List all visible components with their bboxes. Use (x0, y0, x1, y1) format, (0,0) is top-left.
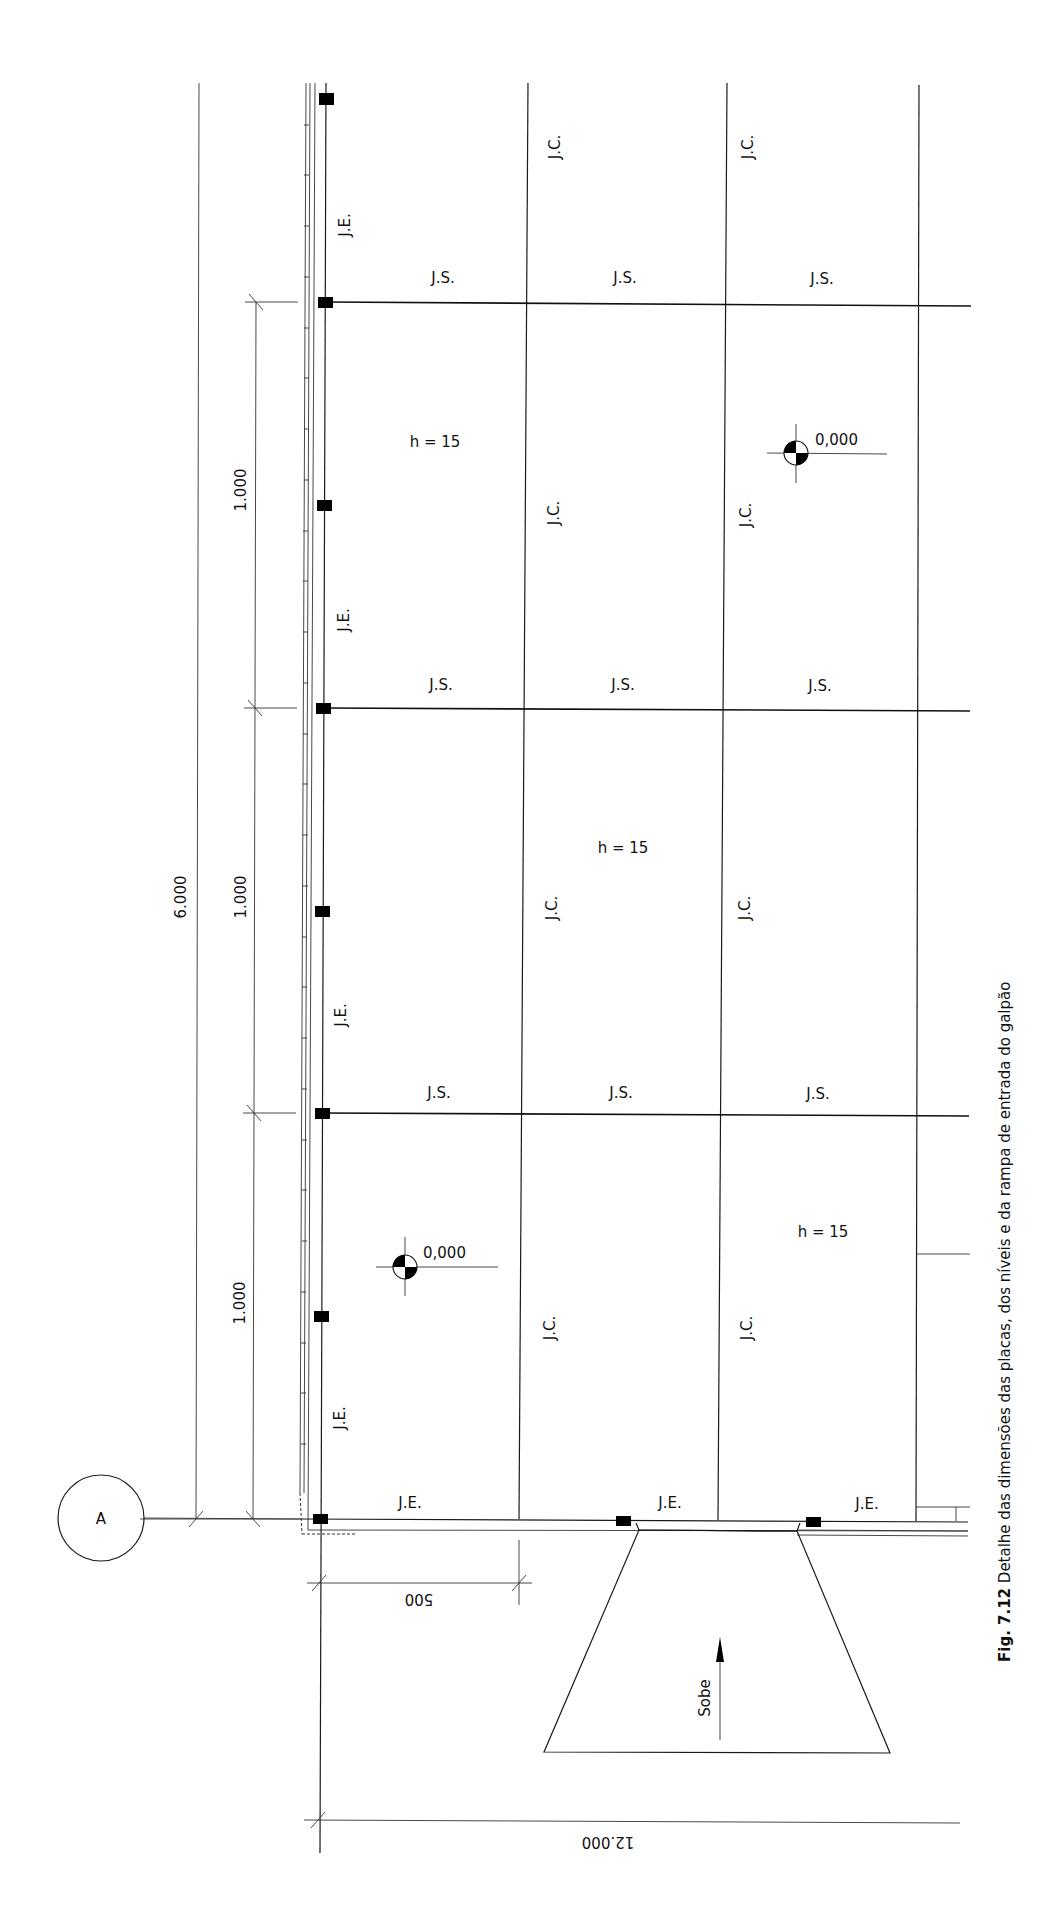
dowel-square-icon (806, 1517, 821, 1527)
dowel-square-icon (315, 906, 330, 917)
label-construction-joint: J.C. (545, 501, 563, 526)
label-sawn-joint: J.S. (807, 677, 831, 695)
dimension-500-label: 500 (405, 1590, 434, 1608)
dowel-squares (313, 93, 821, 1527)
label-sawn-joint: J.S. (610, 676, 634, 694)
grid-bubble-a: A (58, 1475, 300, 1561)
label-sawn-joint: J.S. (608, 1084, 632, 1102)
label-sawn-joint: J.S. (805, 1085, 829, 1103)
slab-thickness-label: h = 15 (410, 433, 461, 451)
label-sawn-joint: J.S. (809, 270, 833, 288)
grid-bubble-label: A (96, 1510, 107, 1528)
floor-slab-plan-drawing: 6.000 1.000 1.000 1.000 A (0, 0, 1047, 1928)
level-value: 0,000 (423, 1244, 466, 1262)
arrow-up-icon (716, 1637, 724, 1740)
label-construction-joint: J.C. (738, 1316, 756, 1341)
dimension-1000-label-middle: 1.000 (232, 876, 250, 919)
dimension-1000-label-bottom: 1.000 (231, 1282, 249, 1325)
dimension-1000-label-top: 1.000 (232, 469, 250, 512)
sawn-joint-1 (326, 302, 971, 306)
label-sawn-joint: J.S. (426, 1084, 450, 1102)
caption-text: Detalhe das dimensões das placas, dos ní… (996, 982, 1014, 1584)
label-expansion-joint: J.E. (331, 1406, 349, 1430)
label-expansion-joint: J.E. (336, 213, 354, 237)
label-construction-joint: J.C. (736, 896, 754, 921)
dowel-square-icon (616, 1516, 631, 1526)
label-construction-joint: J.C. (543, 896, 561, 921)
label-sawn-joint: J.S. (430, 269, 454, 287)
dimension-12000: 12.000 (304, 1812, 960, 1851)
dowel-square-icon (318, 297, 333, 308)
label-construction-joint: J.C. (737, 503, 755, 528)
expansion-joint-left (320, 83, 326, 1853)
dowel-square-icon (316, 703, 331, 714)
slab-thickness-label: h = 15 (798, 1223, 849, 1241)
construction-joint-1 (519, 83, 528, 1519)
label-expansion-joint: J.E. (657, 1494, 681, 1512)
label-construction-joint: J.C. (739, 135, 757, 160)
dowel-square-icon (317, 500, 332, 511)
left-wall (300, 83, 968, 1534)
joint-labels: J.E. J.E. J.E. J.E. J.C. J.C. J.C. J.C. … (331, 135, 879, 1513)
dimension-12000-label: 12.000 (582, 1833, 635, 1851)
sawn-joint-2 (324, 708, 970, 711)
level-marker-lower: 0,000 (376, 1237, 498, 1296)
level-marker-upper: 0,000 (767, 424, 887, 483)
label-expansion-joint: J.E. (332, 1003, 350, 1027)
caption-number: Fig. 7.12 (996, 1588, 1014, 1662)
label-construction-joint: J.C. (541, 1316, 559, 1341)
expansion-joint-bottom (300, 1519, 968, 1522)
dowel-square-icon (315, 1108, 330, 1119)
dimension-500: 500 (307, 1540, 532, 1608)
dowel-square-icon (314, 1311, 329, 1322)
label-sawn-joint: J.S. (428, 676, 452, 694)
ramp-direction-label: Sobe (696, 1679, 714, 1716)
entrance-ramp: Sobe (544, 1523, 890, 1753)
level-value: 0,000 (815, 431, 858, 449)
sawn-joint-3 (322, 1113, 969, 1116)
dimension-6000-label: 6.000 (172, 876, 190, 919)
label-expansion-joint: J.E. (335, 608, 353, 632)
label-construction-joint: J.C. (546, 135, 564, 160)
construction-joint-2 (718, 83, 727, 1520)
slab-edge-right (916, 85, 919, 1521)
svg-text:Fig. 7.12 Detalh: Fig. 7.12 Detalhe das dimensões das plac… (996, 982, 1014, 1662)
label-expansion-joint: J.E. (397, 1494, 421, 1512)
dimension-chain-1000: 1.000 1.000 1.000 (140, 294, 300, 1527)
figure-caption: Fig. 7.12 Detalhe das dimensões das plac… (996, 982, 1014, 1662)
joint-lines (300, 83, 971, 1853)
dimension-6000: 6.000 (172, 83, 203, 1527)
slab-thickness-labels: h = 15 h = 15 h = 15 (410, 433, 849, 1241)
label-sawn-joint: J.S. (612, 269, 636, 287)
slab-thickness-label: h = 15 (598, 839, 649, 857)
dowel-square-icon (319, 93, 334, 105)
label-expansion-joint: J.E. (854, 1495, 878, 1513)
dowel-square-icon (313, 1514, 328, 1524)
